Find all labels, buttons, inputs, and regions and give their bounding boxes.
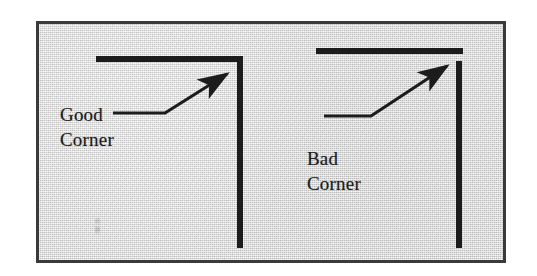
figure-page: Good Corner Bad Corner <box>0 0 537 276</box>
figure-frame: Good Corner Bad Corner <box>36 21 506 263</box>
bad-corner-label: Bad Corner <box>307 146 361 196</box>
good-corner-group <box>96 57 243 248</box>
bad-corner-leader-line <box>324 66 447 116</box>
good-corner-label: Good Corner <box>60 102 114 152</box>
good-corner-leader-line <box>113 74 227 113</box>
